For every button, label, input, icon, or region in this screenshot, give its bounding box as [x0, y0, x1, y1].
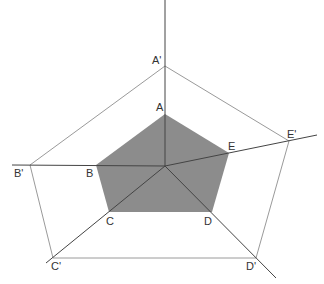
- vertex-label-a: A: [156, 101, 164, 113]
- inner-pentagon-abcde: [96, 114, 229, 212]
- vertex-label-e: E: [228, 140, 235, 152]
- vertex-label-c: C: [106, 215, 114, 227]
- dilation-diagram: ABCDEA'B'C'D'E': [0, 0, 324, 284]
- vertex-label-e-prime: E': [287, 128, 296, 140]
- vertex-label-d-prime: D': [246, 260, 256, 272]
- vertex-label-b-prime: B': [14, 167, 23, 179]
- vertex-label-b: B: [86, 167, 93, 179]
- dilation-rays: [12, 0, 317, 278]
- vertex-label-d: D: [204, 215, 212, 227]
- vertex-label-a-prime: A': [152, 54, 161, 66]
- vertex-label-c-prime: C': [51, 260, 61, 272]
- ray-d: [165, 166, 276, 278]
